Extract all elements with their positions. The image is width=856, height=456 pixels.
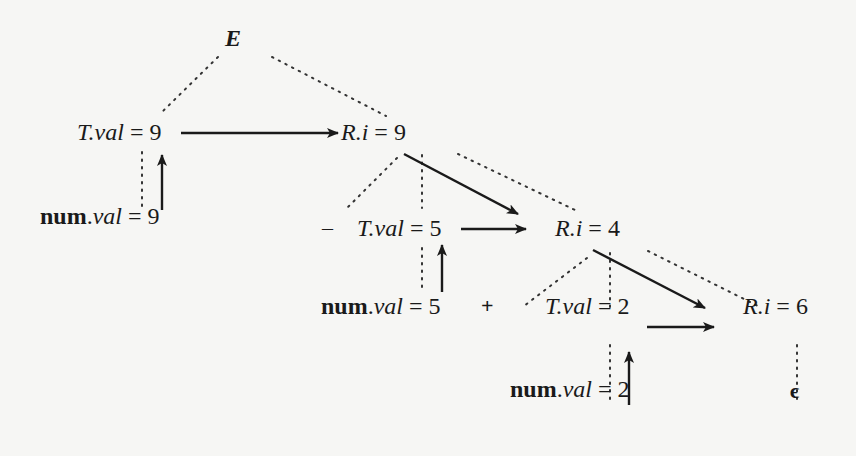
node-root-E: E	[225, 24, 241, 52]
symbol: T	[357, 215, 369, 241]
equals: =	[128, 203, 142, 229]
parse-tree-diagram: E T.val = 9 R.i = 9 num.val = 9 – T.val …	[0, 0, 856, 456]
attribute: i	[576, 215, 583, 241]
symbol: num	[321, 293, 368, 319]
value: 4	[608, 215, 620, 241]
attribute: val	[563, 293, 592, 319]
node-num1: num.val = 9	[40, 202, 160, 230]
minus-operator: –	[322, 214, 333, 242]
node-T3: T.val = 2	[545, 292, 629, 320]
attribute: val	[95, 119, 124, 145]
value: 9	[394, 119, 406, 145]
node-num3: num.val = 2	[510, 375, 630, 403]
equals: =	[409, 293, 423, 319]
equals: =	[374, 119, 388, 145]
root-symbol: E	[225, 25, 241, 51]
value: 9	[148, 203, 160, 229]
symbol: T	[77, 119, 89, 145]
symbol: R	[341, 119, 356, 145]
value: 2	[618, 376, 630, 402]
epsilon-leaf: ϵ	[790, 377, 799, 405]
node-T2: T.val = 5	[357, 214, 441, 242]
attribute: val	[93, 203, 122, 229]
dependency-arrows	[162, 133, 714, 405]
attribute: i	[362, 119, 369, 145]
value: 2	[617, 293, 629, 319]
equals: =	[588, 215, 602, 241]
node-R1: R.i = 9	[341, 118, 406, 146]
equals: =	[598, 293, 612, 319]
value: 5	[429, 215, 441, 241]
node-R2: R.i = 4	[555, 214, 620, 242]
equals: =	[598, 376, 612, 402]
attribute: val	[563, 376, 592, 402]
attribute: val	[375, 215, 404, 241]
equals: =	[776, 293, 790, 319]
equals: =	[410, 215, 424, 241]
attribute: i	[764, 293, 771, 319]
symbol: R	[555, 215, 570, 241]
attribute: val	[374, 293, 403, 319]
node-num2: num.val = 5	[321, 292, 441, 320]
plus-operator: +	[481, 292, 494, 320]
node-R3: R.i = 6	[743, 292, 808, 320]
value: 6	[796, 293, 808, 319]
symbol: T	[545, 293, 557, 319]
node-T1: T.val = 9	[77, 118, 161, 146]
tree-edges	[142, 57, 797, 404]
symbol: num	[40, 203, 87, 229]
symbol: num	[510, 376, 557, 402]
symbol: R	[743, 293, 758, 319]
value: 9	[149, 119, 161, 145]
equals: =	[130, 119, 144, 145]
value: 5	[429, 293, 441, 319]
